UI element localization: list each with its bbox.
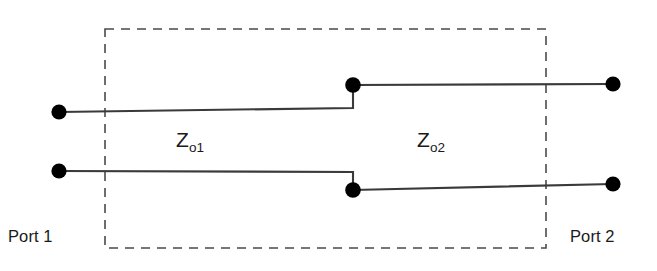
impedance-label-zo2-base: Z <box>417 128 430 151</box>
port-2-lower-terminal-node <box>605 176 620 191</box>
port-2-label: Port 2 <box>570 228 615 245</box>
impedance-label-zo2: Zo2 <box>417 129 445 150</box>
port-1-lower-terminal-node <box>51 163 66 178</box>
impedance-label-zo1-base: Z <box>176 128 189 151</box>
step-junction-lower-node <box>345 182 361 198</box>
port-2-upper-terminal-node <box>605 76 620 91</box>
circuit-diagram-figure: Port 1 Port 2 Zo1 Zo2 <box>0 0 657 271</box>
impedance-label-zo1: Zo1 <box>176 129 204 150</box>
step-junction-upper-node <box>345 77 361 93</box>
dashed-enclosure-box <box>105 29 546 248</box>
upper-conductor-line <box>59 84 613 112</box>
lower-conductor-line <box>59 171 613 190</box>
impedance-label-zo1-subscript: o1 <box>189 140 204 155</box>
diagram-canvas <box>0 0 657 271</box>
port-1-upper-terminal-node <box>51 104 66 119</box>
port-1-label: Port 1 <box>8 228 53 245</box>
impedance-label-zo2-subscript: o2 <box>430 140 445 155</box>
